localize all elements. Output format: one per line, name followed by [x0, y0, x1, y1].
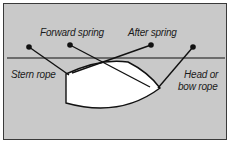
label-head-rope-line1: Head or [184, 69, 218, 81]
bollard-forward-spring-icon [67, 42, 73, 48]
label-forward-spring: Forward spring [40, 27, 104, 39]
bollard-stern-icon [26, 44, 32, 50]
bollard-head-icon [190, 44, 196, 50]
label-head-rope-line2: bow rope [178, 81, 218, 93]
bollard-after-spring-icon [148, 42, 154, 48]
label-after-spring: After spring [128, 27, 177, 39]
label-stern-rope: Stern rope [11, 69, 56, 81]
